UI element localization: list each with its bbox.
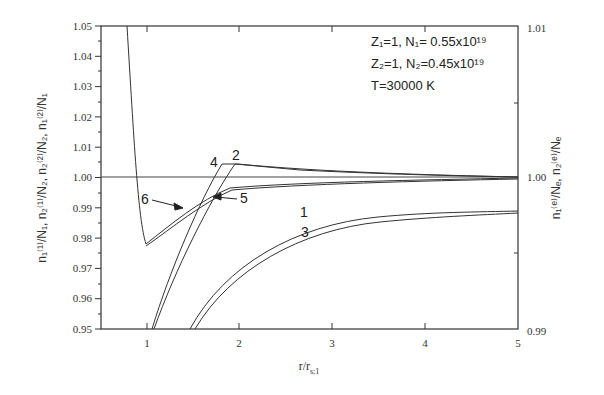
svg-text:5: 5 <box>515 337 521 349</box>
svg-text:6: 6 <box>141 191 149 207</box>
x-axis-label: r/rs;1 <box>299 359 320 376</box>
svg-text:0.95: 0.95 <box>73 323 93 335</box>
svg-text:1.03: 1.03 <box>73 80 93 92</box>
svg-text:4: 4 <box>422 337 428 349</box>
right-y-axis-label: n₁⁽ᵉ⁾/Nₑ, n₂⁽ᵉ⁾/Nₑ <box>549 136 563 219</box>
svg-text:2: 2 <box>236 337 242 349</box>
svg-text:1.02: 1.02 <box>73 111 92 123</box>
svg-text:0.99: 0.99 <box>527 325 547 337</box>
svg-text:1.05: 1.05 <box>73 20 93 32</box>
svg-text:Z₂=1, N₂=0.45x10¹⁹: Z₂=1, N₂=0.45x10¹⁹ <box>371 56 484 71</box>
curve-1 <box>195 213 518 329</box>
left-y-axis-label: n₁⁽¹⁾/N₁, n₂⁽¹⁾/N₂, n₂⁽²⁾/N₂, n₁⁽²⁾/N₁ <box>35 93 49 263</box>
right-y-tick-labels: 1.01 1.00 0.99 <box>527 22 547 337</box>
svg-text:0.99: 0.99 <box>73 202 93 214</box>
x-tick-labels: 1 2 3 4 5 <box>144 337 521 349</box>
svg-text:1.01: 1.01 <box>73 141 92 153</box>
svg-text:Z₁=1, N₁= 0.55x10¹⁹: Z₁=1, N₁= 0.55x10¹⁹ <box>371 34 487 49</box>
svg-text:0.96: 0.96 <box>73 292 93 304</box>
curve-3 <box>190 211 518 329</box>
svg-text:1.00: 1.00 <box>73 171 93 183</box>
svg-text:4: 4 <box>210 154 218 170</box>
left-y-tick-labels: 1.05 1.04 1.03 1.02 1.01 1.00 0.99 0.98 … <box>73 20 93 335</box>
svg-text:3: 3 <box>301 224 309 240</box>
svg-text:0.97: 0.97 <box>73 262 93 274</box>
svg-text:2: 2 <box>232 147 240 163</box>
svg-text:1.01: 1.01 <box>527 22 546 34</box>
curve-4 <box>152 164 518 329</box>
parameter-annotations: Z₁=1, N₁= 0.55x10¹⁹ Z₂=1, N₂=0.45x10¹⁹ T… <box>371 34 487 93</box>
chart: 1.05 1.04 1.03 1.02 1.01 1.00 0.99 0.98 … <box>0 0 604 395</box>
svg-text:T=30000 K: T=30000 K <box>371 78 435 93</box>
svg-text:5: 5 <box>240 190 248 206</box>
svg-text:1.04: 1.04 <box>73 50 93 62</box>
svg-text:0.98: 0.98 <box>73 232 93 244</box>
svg-text:1: 1 <box>300 204 308 220</box>
left-y-ticks <box>95 26 101 329</box>
svg-text:1.00: 1.00 <box>527 171 547 183</box>
svg-text:3: 3 <box>329 337 335 349</box>
svg-text:1: 1 <box>144 337 150 349</box>
